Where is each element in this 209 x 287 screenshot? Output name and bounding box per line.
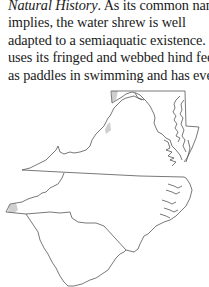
south-carolina-outline — [26, 214, 126, 286]
body-text: Natural History. As its common name impl… — [8, 0, 208, 84]
text-line-3: adapted to a semiaquatic existence. It — [8, 32, 208, 49]
text-line-4: uses its fringed and webbed hind feet — [8, 49, 208, 66]
virginia-outline — [22, 96, 184, 177]
range-area-virginia — [105, 122, 111, 134]
chesapeake-bay-shoreline — [146, 96, 190, 166]
book-title-italic: Natural History — [8, 0, 97, 13]
text-line-2: implies, the water shrew is well — [8, 14, 208, 31]
range-map — [0, 80, 209, 287]
north-carolina-outline — [6, 173, 192, 252]
text-line-1: Natural History. As its common name — [8, 0, 208, 14]
